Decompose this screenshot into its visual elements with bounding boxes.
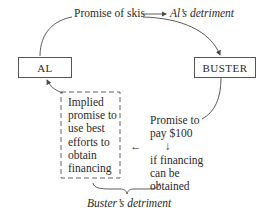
condition-line: can be: [150, 167, 203, 180]
promise-to-buster-curve: [143, 17, 220, 55]
condition-line: if financing: [150, 154, 203, 167]
buster-promise-text: Promise to pay $100 ↓ if financing can b…: [150, 114, 203, 193]
buster-label: BUSTER: [202, 62, 247, 74]
dashed-to-al-curve: [47, 80, 63, 93]
dashed-line: use best: [68, 122, 117, 135]
busters-detriment-label: Buster’s detriment: [87, 197, 171, 210]
buster-node: BUSTER: [194, 57, 256, 78]
dashed-line: efforts to: [68, 136, 117, 149]
dashed-line: financing: [68, 162, 117, 175]
buster-to-promise-curve: [202, 78, 221, 119]
al-to-promise-curve: [40, 17, 72, 56]
diagram-connectors: [0, 0, 259, 212]
dashed-line: promise to: [68, 109, 117, 122]
al-label: AL: [37, 62, 53, 74]
dashed-line: Implied: [68, 96, 117, 109]
condition-line: obtained: [150, 180, 203, 193]
promise-line: Promise to: [150, 114, 203, 127]
al-node: AL: [18, 57, 72, 78]
promise-line: pay $100: [150, 127, 203, 140]
als-detriment-label: Al’s detriment: [170, 7, 234, 20]
left-arrow-icon: ←: [130, 140, 142, 153]
dashed-line: obtain: [68, 149, 117, 162]
down-arrow-icon: ↓: [150, 140, 203, 153]
implied-promise-text: Implied promise to use best efforts to o…: [68, 96, 117, 175]
promise-of-skis-label: Promise of skis: [74, 7, 145, 20]
